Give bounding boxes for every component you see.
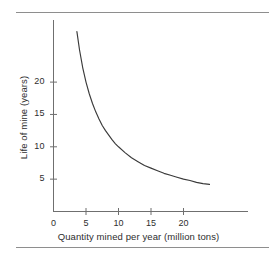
- x-tick-label: 10: [109, 218, 129, 228]
- y-axis-title: Life of mine (years): [18, 53, 29, 183]
- x-tick-label: 0: [44, 218, 64, 228]
- data-series-curve: [77, 32, 210, 185]
- axes-group: [54, 20, 249, 212]
- plot-canvas: [0, 0, 277, 266]
- figure: 5101520 05101520 Life of mine (years) Qu…: [0, 0, 277, 266]
- x-tick-label: 20: [174, 218, 194, 228]
- x-tick-label: 15: [141, 218, 161, 228]
- x-tick-label: 5: [76, 218, 96, 228]
- x-axis-title: Quantity mined per year (million tons): [0, 231, 277, 242]
